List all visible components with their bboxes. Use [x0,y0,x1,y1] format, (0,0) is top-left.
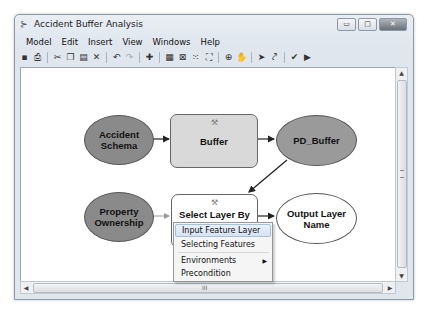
menu-item-selecting-features[interactable]: Selecting Features [174,238,272,251]
scroll-grip: III [202,284,207,292]
horizontal-scrollbar[interactable]: ◀ III ▶ [20,281,396,294]
toolbar: ▪ ⎙ ✂ ❐ ▤ ✕ ↶ ↷ ✚ ▦ ⊠ ⁙ ⛶ ⊕ ✋ ➤ ⤤ ✔ ▶ [19,50,313,64]
select-icon[interactable]: ➤ [256,52,267,63]
scroll-right-arrow[interactable]: ▶ [385,282,395,293]
toolbar-separator [218,52,219,63]
menu-separator [178,252,269,253]
menu-windows[interactable]: Windows [148,35,196,49]
auto-layout-icon[interactable]: ▦ [164,52,175,63]
cut-icon[interactable]: ✂ [52,52,63,63]
menu-help[interactable]: Help [196,35,225,49]
window-title: Accident Buffer Analysis [34,19,143,29]
node-pd-buffer[interactable]: PD_Buffer [276,115,357,166]
validate-icon[interactable]: ✔ [289,52,300,63]
add-data-icon[interactable]: ✚ [144,52,155,63]
connect-icon[interactable]: ⤤ [269,52,280,63]
scroll-left-arrow[interactable]: ◀ [21,282,31,293]
hammer-icon: ⚒ [211,117,218,128]
undo-icon[interactable]: ↶ [111,52,122,63]
node-buffer-tool[interactable]: ⚒ Buffer [170,114,258,168]
zoom-in-icon[interactable]: ⊕ [223,52,234,63]
menu-item-environments[interactable]: Environments▶ [174,254,272,267]
redo-icon[interactable]: ↷ [124,52,135,63]
run-icon[interactable]: ▶ [302,52,313,63]
delete-icon[interactable]: ✕ [91,52,102,63]
save-icon[interactable]: ▪ [19,52,30,63]
scroll-down-arrow[interactable]: ▼ [396,271,407,281]
vertical-scrollbar[interactable]: ▲ ▼ [395,67,408,282]
scroll-up-arrow[interactable]: ▲ [396,68,407,78]
vertical-scroll-thumb[interactable] [397,80,407,268]
toolbar-separator [159,52,160,63]
menu-bar: Model Edit Insert View Windows Help [21,35,225,49]
minimize-button[interactable]: ▭ [337,18,356,31]
menu-edit[interactable]: Edit [57,35,83,49]
menu-view[interactable]: View [117,35,147,49]
toolbar-separator [139,52,140,63]
print-icon[interactable]: ⎙ [32,52,43,63]
node-output-layer[interactable]: Output Layer Name [276,193,357,244]
window-controls: ▭ □ ✕ [337,18,407,31]
model-icon: ⊱ [20,19,32,30]
scroll-grip [400,170,404,178]
pan-icon[interactable]: ✋ [236,52,247,63]
full-extent-icon[interactable]: ⊠ [177,52,188,63]
menu-item-input-feature-layer[interactable]: Input Feature Layer [175,224,271,237]
title-bar[interactable]: ⊱ Accident Buffer Analysis ▭ □ ✕ [15,15,413,35]
fixed-zoom-out-icon[interactable]: ⛶ [203,52,214,63]
toolbar-separator [47,52,48,63]
node-property-ownership[interactable]: Property Ownership [84,192,154,242]
submenu-arrow-icon: ▶ [262,254,267,267]
fixed-zoom-in-icon[interactable]: ⁙ [190,52,201,63]
close-button[interactable]: ✕ [379,18,407,31]
maximize-button[interactable]: □ [358,18,377,31]
toolbar-separator [251,52,252,63]
hammer-icon: ⚒ [211,197,218,208]
horizontal-scroll-thumb[interactable]: III [33,283,383,293]
menu-item-precondition[interactable]: Precondition [174,267,272,280]
toolbar-separator [106,52,107,63]
menu-insert[interactable]: Insert [83,35,117,49]
node-accident-schema[interactable]: Accident Schema [84,115,154,165]
copy-icon[interactable]: ❐ [65,52,76,63]
menu-model[interactable]: Model [21,35,57,49]
context-menu: Input Feature Layer Selecting Features E… [173,222,273,282]
toolbar-separator [284,52,285,63]
paste-icon[interactable]: ▤ [78,52,89,63]
